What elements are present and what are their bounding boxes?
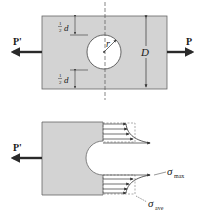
stress-distribution-top	[103, 123, 150, 143]
sigma-max-symbol: σ	[167, 165, 173, 177]
sigma-ave-subscript: ave	[155, 205, 164, 211]
svg-text:d: d	[64, 23, 69, 33]
sigma-max-leader	[154, 172, 166, 175]
stress-concentration-diagram: r D 1 2 d 1 2 d P' P	[0, 0, 205, 214]
sigma-ave-symbol: σ	[148, 197, 154, 209]
load-right-label: P	[186, 36, 192, 47]
svg-text:d: d	[64, 75, 69, 85]
half-plate-section	[42, 122, 103, 195]
stress-distribution-bottom	[103, 175, 150, 194]
width-label: D	[140, 46, 149, 58]
sigma-max-subscript: max	[174, 173, 184, 179]
radius-label: r	[106, 38, 110, 49]
top-figure: r D 1 2 d 1 2 d P' P	[13, 2, 192, 100]
sigma-ave-leader	[136, 196, 147, 202]
bottom-figure: σ max σ ave P'	[13, 122, 184, 211]
load-left-label-bottom: P'	[13, 142, 22, 153]
load-left-label: P'	[13, 36, 22, 47]
